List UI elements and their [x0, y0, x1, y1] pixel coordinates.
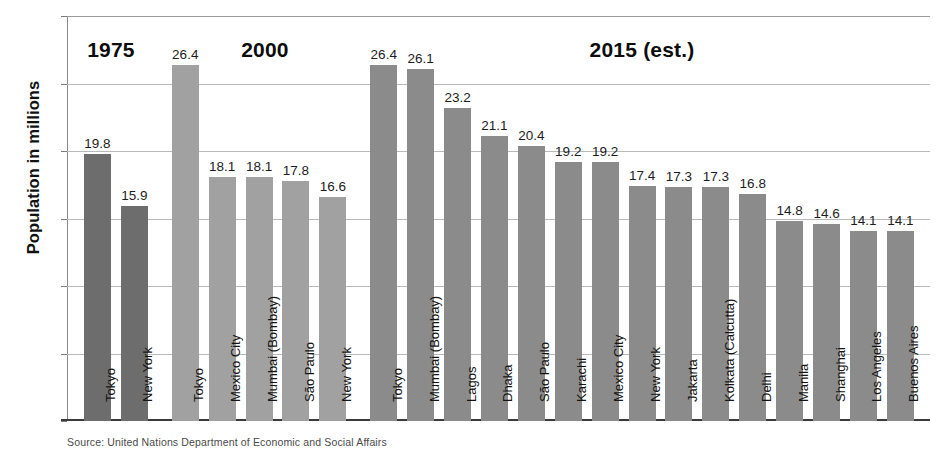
- bar-value-label: 14.1: [887, 213, 913, 228]
- bar-value-label: 18.1: [246, 159, 272, 174]
- bar-category-label: Los Angeles: [870, 331, 883, 402]
- bar: 17.3Jakarta: [665, 187, 692, 421]
- source-note: Source: United Nations Department of Eco…: [67, 436, 387, 448]
- bar-category-label: New York: [141, 347, 154, 402]
- bar-category-label: Buenos Aires: [907, 325, 920, 402]
- bar-category-label: São Paulo: [302, 342, 315, 402]
- bar-value-label: 20.4: [518, 128, 544, 143]
- bar: 15.9New York: [121, 206, 148, 421]
- bar: 16.6New York: [319, 197, 346, 421]
- bar-category-label: New York: [649, 347, 662, 402]
- bar: 14.8Manila: [776, 221, 803, 421]
- bar-value-label: 23.2: [444, 90, 470, 105]
- bar-value-label: 14.6: [813, 206, 839, 221]
- gridline-30: [67, 16, 930, 17]
- bar-category-label: Delhi: [759, 372, 772, 402]
- bar-value-label: 17.3: [666, 169, 692, 184]
- bar-category-label: Mumbai (Bombay): [266, 296, 279, 402]
- bar: 14.6Shanghai: [813, 224, 840, 421]
- bar-value-label: 21.1: [481, 118, 507, 133]
- y-tick-30: [61, 16, 67, 17]
- bar-category-label: São Paulo: [538, 342, 551, 402]
- bar-value-label: 19.8: [84, 136, 110, 151]
- bar: 16.8Delhi: [739, 194, 766, 421]
- bar-category-label: Mexico City: [229, 335, 242, 402]
- y-tick-5: [61, 354, 67, 355]
- bar-value-label: 17.4: [629, 168, 655, 183]
- bar-value-label: 19.2: [592, 144, 618, 159]
- bar-value-label: 17.3: [703, 169, 729, 184]
- bar: 18.1Mexico City: [209, 177, 236, 421]
- bar-category-label: Mexico City: [612, 335, 625, 402]
- bar: 17.4New York: [629, 186, 656, 421]
- bar-value-label: 26.4: [371, 47, 397, 62]
- bar-category-label: Tokyo: [192, 368, 205, 402]
- bar: 14.1Buenos Aires: [887, 231, 914, 421]
- group-heading-2000: 2000: [241, 38, 289, 62]
- bar-value-label: 14.1: [850, 213, 876, 228]
- bar: 20.4São Paulo: [518, 146, 545, 421]
- bar-value-label: 19.2: [555, 144, 581, 159]
- bar: 23.2Lagos: [444, 108, 471, 421]
- bar: 18.1Mumbai (Bombay): [246, 177, 273, 421]
- bar-value-label: 15.9: [121, 188, 147, 203]
- bar-category-label: Mumbai (Bombay): [427, 296, 440, 402]
- bar-value-label: 17.8: [283, 163, 309, 178]
- bar-category-label: Dhaka: [501, 364, 514, 402]
- bar-category-label: Tokyo: [104, 368, 117, 402]
- group-heading-1975: 1975: [87, 38, 135, 62]
- y-tick-10: [61, 286, 67, 287]
- y-tick-20: [61, 151, 67, 152]
- bar-category-label: Karachi: [575, 358, 588, 402]
- bar-value-label: 26.4: [172, 47, 198, 62]
- y-tick-0: [61, 421, 67, 422]
- bar: 17.3Kolkata (Calcutta): [702, 187, 729, 421]
- y-tick-25: [61, 84, 67, 85]
- bar: 26.1Mumbai (Bombay): [407, 69, 434, 421]
- y-tick-15: [61, 219, 67, 220]
- bar-category-label: Shanghai: [833, 347, 846, 402]
- group-heading-2015: 2015 (est.): [590, 38, 695, 62]
- bar-value-label: 14.8: [777, 203, 803, 218]
- bar-category-label: Jakarta: [685, 359, 698, 402]
- bar-category-label: Tokyo: [390, 368, 403, 402]
- bar: 19.2Karachi: [555, 162, 582, 421]
- bar-value-label: 16.6: [320, 179, 346, 194]
- bar: 26.4Tokyo: [172, 65, 199, 421]
- bar-value-label: 16.8: [740, 176, 766, 191]
- bar: 19.2Mexico City: [592, 162, 619, 421]
- bar: 17.8São Paulo: [282, 181, 309, 421]
- bar-category-label: Lagos: [464, 367, 477, 402]
- bar: 21.1Dhaka: [481, 136, 508, 421]
- y-axis-title: Population in millions: [24, 43, 43, 293]
- bar: 14.1Los Angeles: [850, 231, 877, 421]
- plot-area: 051015202530 197520002015 (est.) 19.8Tok…: [67, 16, 930, 421]
- bar-value-label: 18.1: [209, 159, 235, 174]
- bar-value-label: 26.1: [408, 51, 434, 66]
- bar-category-label: New York: [339, 347, 352, 402]
- bar-category-label: Kolkata (Calcutta): [722, 299, 735, 402]
- bar-category-label: Manila: [796, 364, 809, 402]
- population-bar-chart-figure: Population in millions 051015202530 1975…: [0, 0, 940, 455]
- bar: 19.8Tokyo: [84, 154, 111, 421]
- bar: 26.4Tokyo: [370, 65, 397, 421]
